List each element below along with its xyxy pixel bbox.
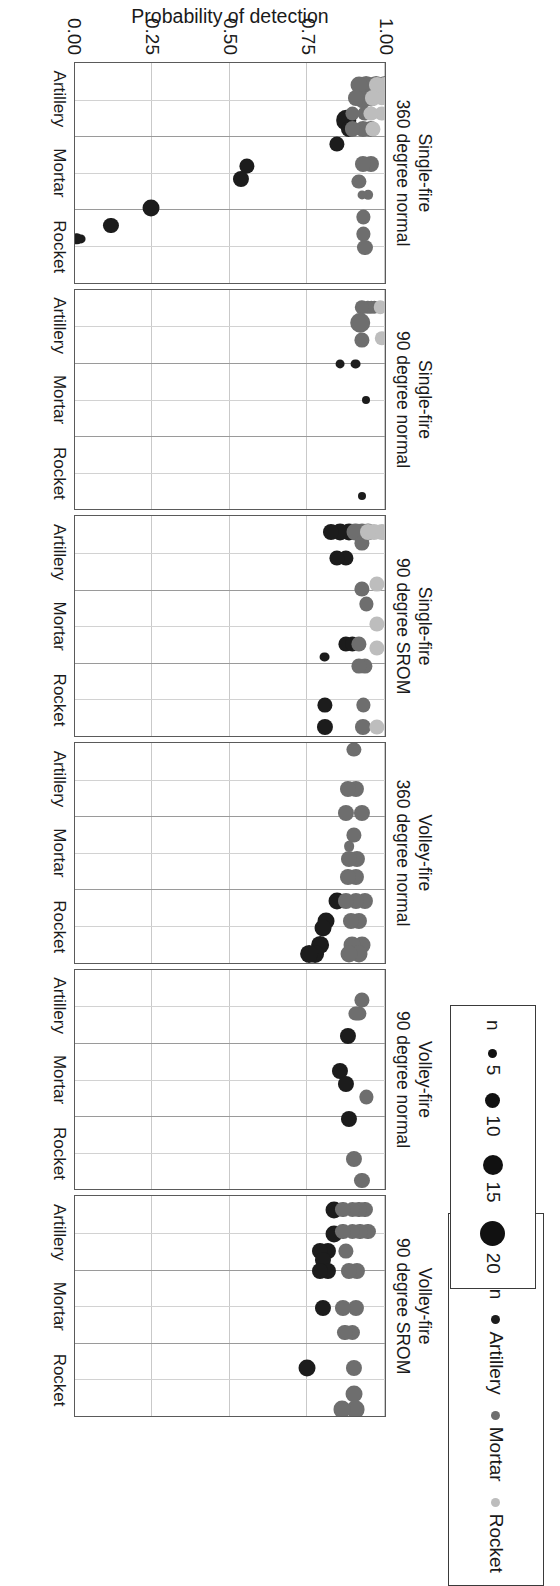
data-point <box>348 90 364 106</box>
gridline-vertical <box>75 436 385 437</box>
facet-1: Single-fire360 degree normalArtilleryMor… <box>44 62 442 284</box>
facet-title: Volley-fire90 degree normal <box>386 969 442 1191</box>
gridline-vertical <box>75 100 385 101</box>
facet-title: Single-fire90 degree normal <box>386 289 442 511</box>
x-axis-tick-label: Mortar <box>49 589 69 663</box>
gridline-vertical <box>75 1153 385 1154</box>
data-point <box>317 698 332 713</box>
gridline-vertical <box>75 1270 385 1271</box>
facet-title: Volley-fire360 degree normal <box>386 742 442 964</box>
data-point <box>364 106 379 121</box>
data-point <box>355 156 371 172</box>
facet-title: Single-fire90 degree SROM <box>386 515 442 737</box>
size-swatch-5-icon <box>489 1049 498 1058</box>
data-point <box>340 781 356 797</box>
data-point <box>348 1006 363 1021</box>
plot-panel <box>74 62 386 284</box>
legend-size-item-5[interactable]: 5 <box>482 1049 504 1076</box>
legend-size-label-10: 10 <box>482 1115 504 1136</box>
gridline-vertical <box>75 1343 385 1344</box>
facet-title-line1: Single-fire <box>414 587 436 666</box>
data-point <box>330 137 345 152</box>
data-point <box>357 240 373 256</box>
data-point <box>370 641 385 656</box>
data-point <box>358 492 366 500</box>
data-point <box>337 1325 353 1341</box>
mortar-swatch-icon <box>492 1411 501 1420</box>
facet-title: Single-fire360 degree normal <box>386 62 442 284</box>
x-axis-categories: ArtilleryMortarRocket <box>44 742 74 964</box>
plot-panel <box>74 969 386 1191</box>
data-point <box>317 719 333 735</box>
data-point <box>375 331 386 345</box>
data-point <box>365 121 380 136</box>
data-point <box>333 1401 350 1417</box>
facet-title-line2: 90 degree SROM <box>392 558 414 694</box>
legend-size-item-10[interactable]: 10 <box>482 1093 504 1136</box>
data-point <box>233 171 249 187</box>
data-point <box>323 524 339 540</box>
x-axis-tick-label: Rocket <box>49 663 69 737</box>
plot-panel <box>74 515 386 737</box>
y-axis-label: Probability of detection <box>131 5 328 28</box>
data-point <box>336 360 345 369</box>
legend-size-item-15[interactable]: 15 <box>482 1155 504 1203</box>
data-point <box>351 636 366 651</box>
x-axis-categories: ArtilleryMortarRocket <box>44 515 74 737</box>
facet-title-line1: Single-fire <box>414 360 436 439</box>
size-swatch-10-icon <box>486 1093 501 1108</box>
gridline-vertical <box>75 209 385 210</box>
data-point <box>335 1224 351 1240</box>
x-axis-tick-label: Artillery <box>49 515 69 589</box>
data-point <box>354 581 369 596</box>
size-swatch-20-icon <box>481 1221 506 1246</box>
data-point <box>314 919 331 936</box>
data-point <box>356 698 371 713</box>
data-point <box>351 658 366 673</box>
facet-title: Volley-fire90 degree SROM <box>386 1195 442 1417</box>
facet-title-line1: Volley-fire <box>414 1268 436 1345</box>
legend-label-rocket: Rocket <box>485 1514 507 1573</box>
data-point <box>360 524 376 540</box>
plot-panel <box>74 742 386 964</box>
data-point <box>356 209 371 224</box>
legend-item-rocket[interactable]: Rocket <box>485 1498 507 1573</box>
data-point <box>344 841 354 851</box>
data-point <box>320 652 329 661</box>
x-axis-tick-label: Rocket <box>49 210 69 284</box>
data-point <box>341 851 357 867</box>
data-point <box>374 300 386 314</box>
legend-item-artillery[interactable]: Artillery <box>485 1315 507 1394</box>
data-point <box>370 577 385 592</box>
data-point <box>362 396 370 404</box>
x-axis-tick-label: Mortar <box>49 1043 69 1117</box>
data-point <box>341 1263 357 1279</box>
data-point <box>335 1202 351 1218</box>
data-point <box>344 121 360 137</box>
x-axis-tick-label: Mortar <box>49 1269 69 1343</box>
x-axis-categories: ArtilleryMortarRocket <box>44 289 74 511</box>
gridline-vertical <box>75 889 385 890</box>
rocket-swatch-icon <box>492 1498 501 1507</box>
legend-size-item-20[interactable]: 20 <box>481 1221 506 1274</box>
data-point <box>370 617 385 632</box>
gridline-vertical <box>75 1006 385 1007</box>
data-point <box>312 1263 328 1279</box>
facet-3: Single-fire90 degree SROMArtilleryMortar… <box>44 515 442 737</box>
artillery-swatch-icon <box>492 1315 501 1324</box>
facet-title-line2: 90 degree normal <box>392 1011 414 1148</box>
data-point <box>365 90 381 106</box>
x-axis-tick-label: Rocket <box>49 1116 69 1190</box>
legend-item-mortar[interactable]: Mortar <box>485 1411 507 1482</box>
gridline-vertical <box>75 400 385 401</box>
data-point <box>340 869 356 885</box>
legend-size-title: n <box>482 1020 504 1031</box>
facet-title-line2: 360 degree normal <box>392 99 414 246</box>
facet-4: Volley-fire360 degree normalArtilleryMor… <box>44 742 442 964</box>
y-axis-tick-label: 0.00 <box>63 18 85 62</box>
facet-title-line2: 90 degree normal <box>392 331 414 468</box>
x-axis-tick-label: Mortar <box>49 363 69 437</box>
facet-5: Volley-fire90 degree normalArtilleryMort… <box>44 969 442 1191</box>
